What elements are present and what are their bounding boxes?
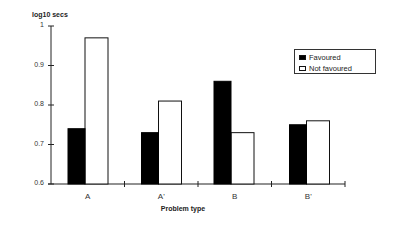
bar-favoured xyxy=(142,133,159,184)
bar-favoured xyxy=(290,125,307,184)
plot-svg xyxy=(0,0,396,229)
bar-favoured xyxy=(68,129,85,184)
y-tick-label: 1 xyxy=(24,21,44,28)
bar-not-favoured xyxy=(85,38,108,184)
legend-label-favoured: Favoured xyxy=(309,53,341,62)
x-tick-label: B xyxy=(220,192,250,201)
legend-item-not-favoured: Not favoured xyxy=(299,63,352,73)
x-tick-label: A' xyxy=(146,192,176,201)
bar-not-favoured xyxy=(159,101,182,184)
x-tick-label: A xyxy=(73,192,103,201)
bar-favoured xyxy=(214,81,231,184)
legend: Favoured Not favoured xyxy=(294,49,376,74)
bar-not-favoured xyxy=(231,133,254,184)
legend-item-favoured: Favoured xyxy=(299,52,341,62)
y-tick-label: 0.7 xyxy=(24,140,44,147)
y-tick-label: 0.6 xyxy=(24,179,44,186)
legend-swatch-favoured xyxy=(299,55,306,60)
y-axis-title: log10 secs xyxy=(32,11,68,18)
chart-area: log10 secs 0.60.70.80.91 AA'BB' Problem … xyxy=(0,0,396,229)
y-tick-label: 0.9 xyxy=(24,61,44,68)
x-tick-label: B' xyxy=(293,192,323,201)
x-axis-title: Problem type xyxy=(150,205,216,212)
legend-label-not-favoured: Not favoured xyxy=(309,64,352,73)
bar-not-favoured xyxy=(307,121,330,184)
legend-swatch-not-favoured xyxy=(299,66,306,71)
y-tick-label: 0.8 xyxy=(24,100,44,107)
